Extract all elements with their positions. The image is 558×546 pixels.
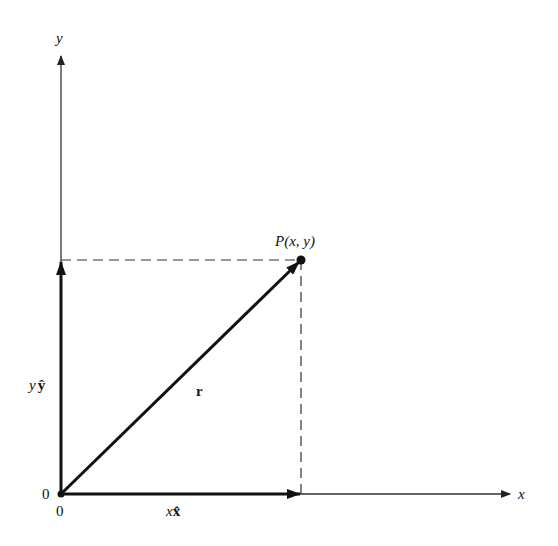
r-vector-label: r bbox=[196, 383, 203, 399]
point-p-label: P(x, y) bbox=[274, 233, 315, 250]
origin-dot bbox=[58, 491, 65, 498]
y-component-label: yŷ bbox=[27, 377, 46, 393]
r-vector bbox=[61, 262, 299, 494]
x-component-label: xx̂ bbox=[165, 503, 181, 519]
x-axis-label: x bbox=[517, 486, 525, 502]
vector-diagram: y x P(x, y) r yŷ xx̂ 0 0 bbox=[0, 0, 558, 546]
point-p-dot bbox=[297, 256, 306, 265]
origin-label-left: 0 bbox=[42, 486, 50, 502]
y-axis-label: y bbox=[54, 30, 63, 46]
origin-label-below: 0 bbox=[56, 503, 64, 519]
